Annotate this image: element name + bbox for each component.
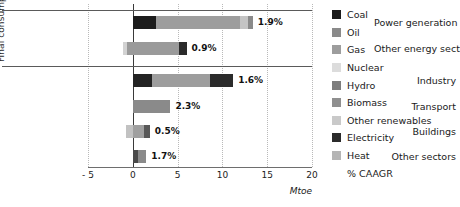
caagr-label: 0.5% bbox=[155, 125, 180, 138]
caagr-label: 0.9% bbox=[192, 42, 217, 55]
legend-item-heat[interactable]: Heat bbox=[332, 147, 458, 165]
legend-label: % CAAGR bbox=[347, 168, 393, 179]
bar-segment-hydro bbox=[248, 16, 252, 29]
x-axis-ticks: - 505101520 bbox=[88, 168, 312, 184]
legend-swatch-icon bbox=[332, 133, 341, 142]
legend-swatch-icon bbox=[332, 10, 341, 19]
legend-label: Nuclear bbox=[347, 62, 384, 73]
legend-swatch-icon bbox=[332, 151, 341, 160]
legend-swatch-icon bbox=[332, 45, 341, 54]
legend-item-other-renewables[interactable]: Other renewables bbox=[332, 112, 458, 130]
caagr-label: 1.7% bbox=[151, 150, 176, 163]
bar-power-generation: 1.9% bbox=[88, 16, 312, 29]
bar-segment-coal bbox=[133, 74, 152, 87]
x-tick-10: 10 bbox=[217, 170, 228, 180]
bar-segment-biomass bbox=[126, 125, 133, 138]
legend-label: Gas bbox=[347, 44, 365, 55]
x-tick-15: 15 bbox=[261, 170, 272, 180]
legend-item-caagr[interactable]: % CAAGR bbox=[332, 164, 458, 182]
legend-item-biomass[interactable]: Biomass bbox=[332, 94, 458, 112]
legend-swatch-icon bbox=[332, 81, 341, 90]
gridline bbox=[312, 4, 314, 167]
legend-label: Oil bbox=[347, 27, 360, 38]
section-divider-top bbox=[2, 10, 312, 11]
bar-segment-gas bbox=[152, 74, 210, 87]
bar-segment-electricity bbox=[179, 42, 186, 55]
legend-label: Coal bbox=[347, 9, 368, 20]
legend-item-hydro[interactable]: Hydro bbox=[332, 76, 458, 94]
legend-swatch-icon bbox=[332, 98, 341, 107]
chart-container: Final consumption 1.9%0.9%1.6%2.3%0.5%1.… bbox=[0, 0, 460, 207]
legend: CoalOilGasNuclearHydroBiomassOther renew… bbox=[332, 6, 458, 182]
bar-segment-electricity bbox=[144, 125, 150, 138]
x-tick-neg5: - 5 bbox=[82, 170, 94, 180]
bar-segment-electricity bbox=[138, 150, 146, 163]
x-tick-0: 0 bbox=[130, 170, 136, 180]
bar-other-sectors: 1.7% bbox=[88, 150, 312, 163]
legend-swatch-icon bbox=[332, 169, 341, 178]
legend-label: Electricity bbox=[347, 132, 394, 143]
category-axis: Final consumption bbox=[0, 4, 86, 167]
legend-item-gas[interactable]: Gas bbox=[332, 41, 458, 59]
legend-item-nuclear[interactable]: Nuclear bbox=[332, 59, 458, 77]
legend-item-coal[interactable]: Coal bbox=[332, 6, 458, 24]
bar-transport: 2.3% bbox=[88, 100, 312, 113]
legend-label: Other renewables bbox=[347, 115, 431, 126]
caagr-label: 2.3% bbox=[175, 100, 200, 113]
legend-swatch-icon bbox=[332, 116, 341, 125]
bar-segment-gas bbox=[127, 42, 180, 55]
x-axis-unit: Mtoe bbox=[0, 186, 312, 196]
bar-segment-other-renewables bbox=[240, 16, 248, 29]
bar-segment-gas bbox=[133, 125, 144, 138]
bar-buildings: 0.5% bbox=[88, 125, 312, 138]
legend-label: Hydro bbox=[347, 80, 375, 91]
section-divider-middle bbox=[2, 66, 312, 67]
bar-other-energy-sector: 0.9% bbox=[88, 42, 312, 55]
legend-swatch-icon bbox=[332, 63, 341, 72]
bar-segment-gas bbox=[156, 16, 240, 29]
plot-area: 1.9%0.9%1.6%2.3%0.5%1.7% bbox=[88, 4, 312, 167]
legend-item-electricity[interactable]: Electricity bbox=[332, 129, 458, 147]
legend-swatch-icon bbox=[332, 28, 341, 37]
bar-segment-electricity bbox=[210, 74, 233, 87]
caagr-label: 1.9% bbox=[258, 16, 283, 29]
x-tick-5: 5 bbox=[175, 170, 181, 180]
legend-label: Biomass bbox=[347, 97, 387, 108]
legend-label: Heat bbox=[347, 150, 370, 161]
x-tick-20: 20 bbox=[306, 170, 317, 180]
caagr-label: 1.6% bbox=[238, 74, 263, 87]
bar-segment-oil bbox=[133, 100, 171, 113]
legend-item-oil[interactable]: Oil bbox=[332, 24, 458, 42]
bar-industry: 1.6% bbox=[88, 74, 312, 87]
bar-segment-coal bbox=[133, 16, 156, 29]
